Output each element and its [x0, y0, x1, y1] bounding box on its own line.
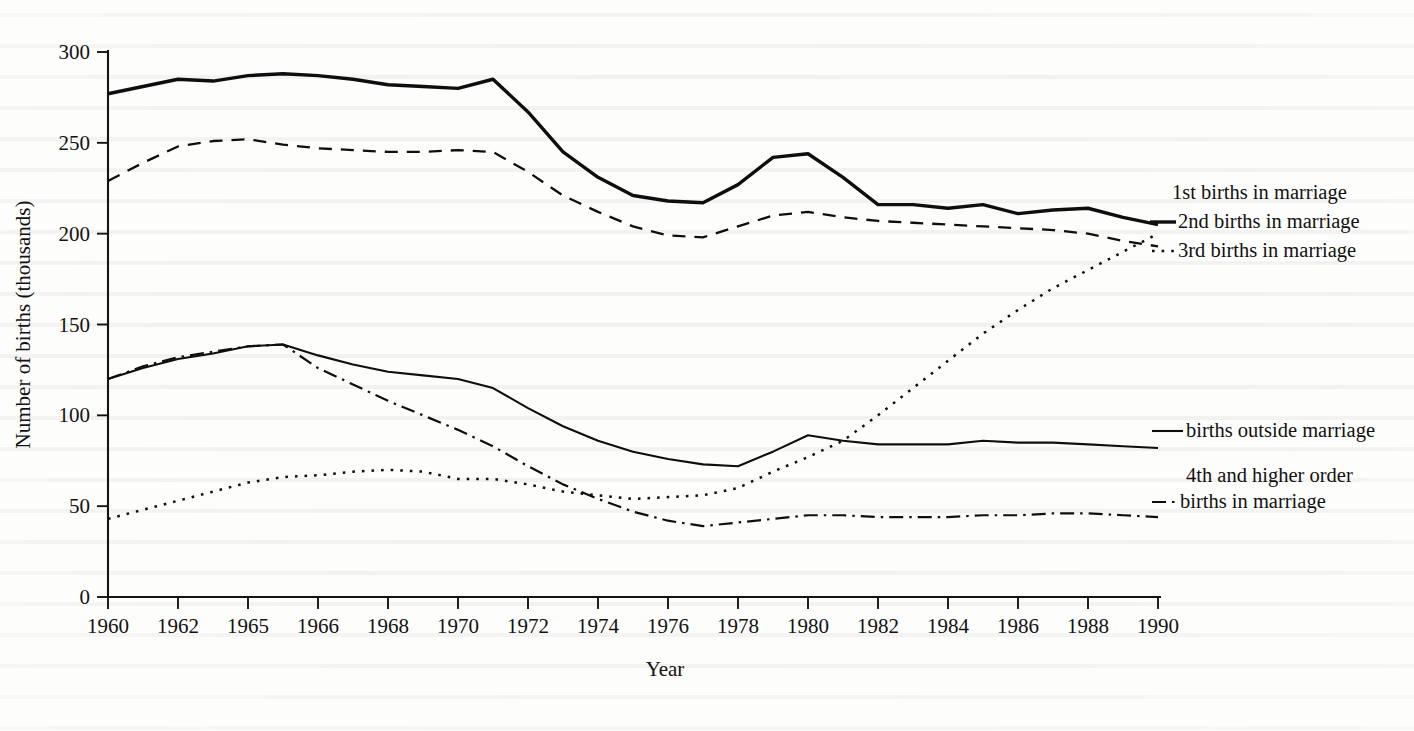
x-tick-label: 1970 [437, 614, 479, 638]
y-tick-label: 200 [59, 222, 91, 246]
y-tick-label: 150 [59, 313, 91, 337]
series-line-4 [108, 344, 1158, 526]
x-tick-label: 1976 [647, 614, 689, 638]
legend-label-3: births outside marriage [1186, 419, 1375, 442]
y-tick-label: 250 [59, 131, 91, 155]
legend-label-2: 3rd births in marriage [1178, 239, 1356, 262]
y-tick-label: 300 [59, 40, 91, 64]
axes [97, 51, 1160, 609]
x-axis-title: Year [646, 657, 685, 681]
x-tick-label: 1986 [997, 614, 1039, 638]
y-tick-label: 100 [59, 403, 91, 427]
y-axis-ticks [97, 52, 108, 597]
y-tick-label: 50 [69, 494, 90, 518]
legend-label-4: 4th and higher order [1186, 464, 1353, 487]
x-tick-label: 1980 [787, 614, 829, 638]
x-tick-label: 1990 [1137, 614, 1179, 638]
x-tick-label: 1978 [717, 614, 759, 638]
data-series-group [108, 74, 1158, 526]
x-tick-label: 1968 [367, 614, 409, 638]
x-tick-label: 1960 [87, 614, 129, 638]
legend-label-4-line2: births in marriage [1180, 490, 1326, 513]
line-chart: 050100150200250300 196019621965196619681… [0, 0, 1414, 731]
x-tick-label: 1962 [157, 614, 199, 638]
legend-label-1: 2nd births in marriage [1178, 210, 1360, 233]
x-tick-label: 1988 [1067, 614, 1109, 638]
x-tick-label: 1974 [577, 614, 620, 638]
x-tick-label: 1972 [507, 614, 549, 638]
series-line-3 [108, 234, 1158, 519]
series-line-1 [108, 139, 1158, 246]
x-tick-label: 1984 [927, 614, 970, 638]
y-axis-tick-labels: 050100150200250300 [59, 40, 91, 609]
x-tick-label: 1965 [227, 614, 269, 638]
legend-group: 1st births in marriage2nd births in marr… [1150, 181, 1375, 513]
y-tick-label: 0 [80, 585, 91, 609]
x-tick-label: 1982 [857, 614, 899, 638]
x-tick-label: 1966 [297, 614, 339, 638]
legend-label-0: 1st births in marriage [1172, 181, 1347, 204]
x-axis-tick-labels: 1960196219651966196819701972197419761978… [87, 614, 1179, 638]
chart-page: 050100150200250300 196019621965196619681… [0, 0, 1414, 731]
series-line-0 [108, 74, 1158, 225]
x-axis-ticks [108, 597, 1158, 609]
series-line-2 [108, 344, 1158, 466]
y-axis-title: Number of births (thousands) [11, 201, 35, 449]
